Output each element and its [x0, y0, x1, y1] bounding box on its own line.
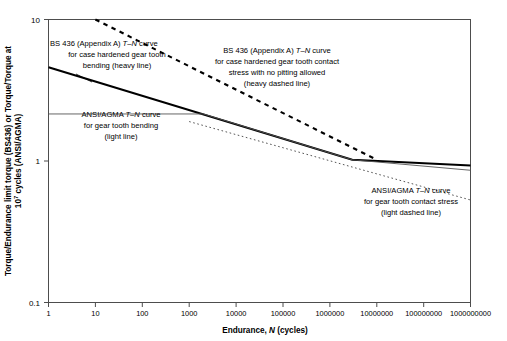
x-tick-label-1000000: 1000000	[316, 309, 345, 318]
chart-svg: 10 1 0.1 1 10 100 1000 10000 100000 1000…	[0, 0, 507, 341]
x-tick-label-10000000: 10000000	[360, 309, 393, 318]
annot-a2-l1-post: curve	[310, 46, 331, 55]
annotation-bs436-contact: BS 436 (Appendix A) T–N curve for case h…	[215, 46, 340, 88]
y-tick-label-1: 1	[36, 157, 41, 166]
x-tick-label-1000: 1000	[181, 309, 197, 318]
x-axis-title-post: (cycles)	[275, 326, 308, 335]
x-tick-label-10000: 10000	[226, 309, 247, 318]
annotation-agma-bending-line2: for gear tooth bending	[84, 121, 158, 130]
y-axis-title-line1: Torque/Endurance limit torque (BS436) or…	[4, 46, 13, 276]
annot-a4-l1-post: curve	[430, 186, 451, 195]
x-tick-label-100: 100	[136, 309, 148, 318]
y-axis-title: Torque/Endurance limit torque (BS436) or…	[4, 46, 23, 276]
y-axis-title-line2: 107 cycles (ANSI/AGMA)	[13, 114, 23, 209]
x-tick-label-100000000: 100000000	[405, 309, 442, 318]
annot-a1-l1-post: curve	[137, 39, 158, 48]
annot-a4-l1-ital: T–N	[415, 186, 430, 195]
annotation-bs436-bending: BS 436 (Appendix A) T–N curve for case h…	[50, 39, 166, 70]
annotation-bs436-contact-line2: for case hardened gear tooth contact	[215, 57, 340, 66]
annot-a3-l1-pre: ANSI/AGMA	[82, 110, 126, 119]
annot-a1-l1-ital: T–N	[123, 39, 138, 48]
y-tick-label-10: 10	[31, 16, 40, 25]
y-tick-label-0.1: 0.1	[29, 299, 41, 308]
annotation-bs436-bending-line1: BS 436 (Appendix A) T–N curve	[50, 39, 158, 48]
annot-a1-l1-pre: BS 436 (Appendix A)	[50, 39, 123, 48]
annotation-bs436-bending-line3: bending (heavy line)	[83, 61, 152, 70]
annotation-agma-bending-line1: ANSI/AGMA T–N curve	[82, 110, 161, 119]
annot-a4-l1-pre: ANSI/AGMA	[372, 186, 416, 195]
x-axis-ticks: 1 10 100 1000 10000 100000 1000000 10000…	[46, 303, 491, 319]
torque-endurance-chart: 10 1 0.1 1 10 100 1000 10000 100000 1000…	[0, 0, 507, 341]
leader-line-bs436-bending	[76, 74, 92, 82]
annotation-bs436-contact-line4: (heavy dashed line)	[244, 79, 311, 88]
annotation-agma-contact-line3: (light dashed line)	[381, 208, 441, 217]
annot-a2-l1-pre: BS 436 (Appendix A)	[223, 46, 296, 55]
x-axis-title-pre: Endurance,	[222, 326, 269, 335]
y-axis-title-line2-post: cycles (ANSI/AGMA)	[14, 114, 23, 196]
x-tick-label-10: 10	[91, 309, 99, 318]
annot-a2-l1-ital: T–N	[296, 46, 311, 55]
annot-a3-l1-ital: T–N	[125, 110, 140, 119]
x-axis-title: Endurance, N (cycles)	[222, 326, 308, 335]
x-tick-label-100000: 100000	[271, 309, 296, 318]
y-axis-ticks: 10 1 0.1	[29, 16, 49, 308]
annotation-agma-contact: ANSI/AGMA T–N curve for gear tooth conta…	[364, 186, 458, 217]
annotation-agma-contact-line2: for gear tooth contact stress	[364, 197, 458, 206]
annotation-bs436-contact-line1: BS 436 (Appendix A) T–N curve	[223, 46, 331, 55]
x-tick-label-1000000000: 1000000000	[450, 309, 491, 318]
annot-a3-l1-post: curve	[140, 110, 161, 119]
x-tick-label-1: 1	[46, 309, 50, 318]
annotation-bs436-bending-line2: for case hardened gear tooth	[68, 50, 166, 59]
annotation-agma-bending: ANSI/AGMA T–N curve for gear tooth bendi…	[82, 110, 161, 141]
annotation-bs436-contact-line3: stress with no pitting allowed	[229, 68, 326, 77]
annotation-agma-contact-line1: ANSI/AGMA T–N curve	[372, 186, 451, 195]
annotation-agma-bending-line3: (light line)	[105, 132, 138, 141]
